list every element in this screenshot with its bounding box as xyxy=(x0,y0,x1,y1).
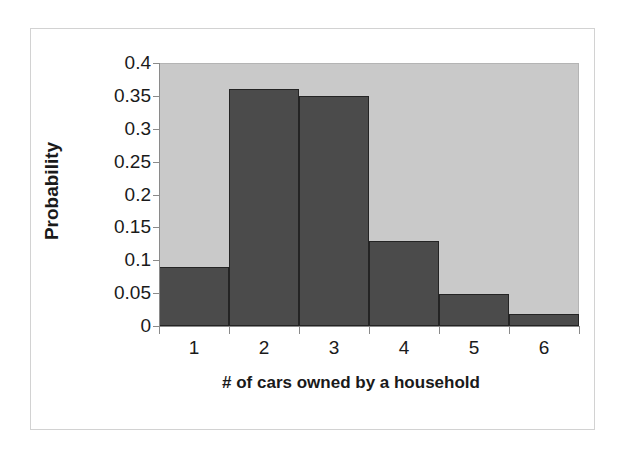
y-axis-tick-label: 0.3 xyxy=(89,119,151,138)
bar-1 xyxy=(159,267,229,326)
bars-layer xyxy=(159,64,578,326)
y-axis-tick-label: 0.1 xyxy=(89,250,151,269)
y-axis-tick-label: 0.4 xyxy=(89,53,151,72)
bar-2 xyxy=(229,89,299,326)
x-axis-tick-label: 5 xyxy=(439,337,509,359)
y-axis-tick-mark xyxy=(153,129,159,130)
x-axis-tick-mark xyxy=(509,327,510,334)
x-axis-tick-mark xyxy=(369,327,370,334)
y-axis-tick-mark xyxy=(153,293,159,294)
y-axis-tick-mark xyxy=(153,260,159,261)
y-axis-tick-labels: 0.40.350.30.250.20.150.10.050 xyxy=(89,63,151,327)
y-axis-tick-mark xyxy=(153,195,159,196)
y-axis-tick-label: 0 xyxy=(89,316,151,335)
y-axis-tick-mark xyxy=(153,162,159,163)
histogram-chart: Probability 0.40.350.30.250.20.150.10.05… xyxy=(31,29,596,431)
figure-frame: Probability 0.40.350.30.250.20.150.10.05… xyxy=(30,28,595,430)
bar-4 xyxy=(369,241,439,326)
x-axis-tick-mark xyxy=(299,327,300,334)
y-axis-line xyxy=(159,63,160,327)
y-axis-tick-label: 0.35 xyxy=(89,86,151,105)
x-axis-tick-mark xyxy=(159,327,160,334)
y-axis-tick-label: 0.25 xyxy=(89,152,151,171)
plot-area xyxy=(159,63,579,326)
y-axis-tick-label: 0.2 xyxy=(89,185,151,204)
bar-3 xyxy=(299,96,369,326)
x-axis-tick-label: 1 xyxy=(159,337,229,359)
x-axis-tick-mark xyxy=(229,327,230,334)
x-axis-title: # of cars owned by a household xyxy=(131,373,571,393)
x-axis-tick-mark xyxy=(439,327,440,334)
y-axis-title: Probability xyxy=(41,101,67,281)
bar-5 xyxy=(439,294,509,326)
y-axis-tick-label: 0.15 xyxy=(89,217,151,236)
x-axis-tick-mark xyxy=(579,327,580,334)
bar-6 xyxy=(509,314,579,326)
x-axis-tick-label: 4 xyxy=(369,337,439,359)
y-axis-tick-mark xyxy=(153,227,159,228)
x-axis-tick-label: 3 xyxy=(299,337,369,359)
y-axis-tick-mark xyxy=(153,96,159,97)
y-axis-tick-mark xyxy=(153,63,159,64)
x-axis-tick-label: 2 xyxy=(229,337,299,359)
y-axis-tick-label: 0.05 xyxy=(89,283,151,302)
x-axis-tick-label: 6 xyxy=(509,337,579,359)
